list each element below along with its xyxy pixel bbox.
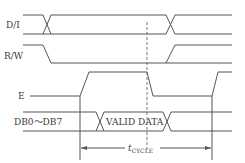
arrow-left-icon xyxy=(81,146,87,150)
valid-data-label: VALID DATA xyxy=(105,117,164,127)
timing-diagram: D/I R/W E DB0～DB7 VALID DATA xyxy=(0,0,245,163)
arrow-right-icon xyxy=(205,146,211,150)
signal-label-e: E xyxy=(18,91,25,101)
e-waveform xyxy=(30,72,232,96)
signal-label-db0-db7: DB0～DB7 xyxy=(14,117,62,127)
signal-d-i: D/I xyxy=(6,15,232,34)
d-i-waveform xyxy=(23,15,232,34)
t-cycle-dimension: tCYCLE xyxy=(81,143,211,154)
t-cycle-label: tCYCLE xyxy=(128,143,153,154)
r-w-waveform xyxy=(23,45,232,63)
signal-db0-db7: DB0～DB7 VALID DATA xyxy=(14,112,232,131)
signal-r-w: R/W xyxy=(4,45,232,63)
signal-label-d-i: D/I xyxy=(6,20,20,30)
signal-label-r-w: R/W xyxy=(4,51,24,61)
signal-e: E xyxy=(18,72,232,101)
